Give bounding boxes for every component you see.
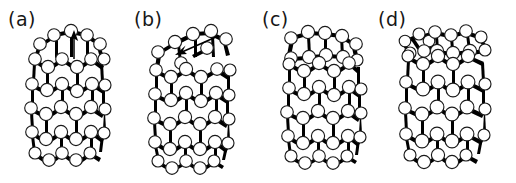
panel-b: (b) xyxy=(128,0,258,183)
panel-a: (a) xyxy=(0,0,130,183)
panel-d: (d) xyxy=(378,0,516,183)
panel-c: (c) xyxy=(256,0,386,183)
nanotube-figure: (a) xyxy=(0,0,516,183)
atoms-c xyxy=(281,25,367,169)
panel-a-structure xyxy=(0,0,130,183)
atoms-a xyxy=(25,24,111,166)
panel-d-structure xyxy=(378,0,516,183)
panel-b-structure xyxy=(128,0,258,183)
panel-c-structure xyxy=(256,0,386,183)
atoms-d xyxy=(399,25,491,169)
